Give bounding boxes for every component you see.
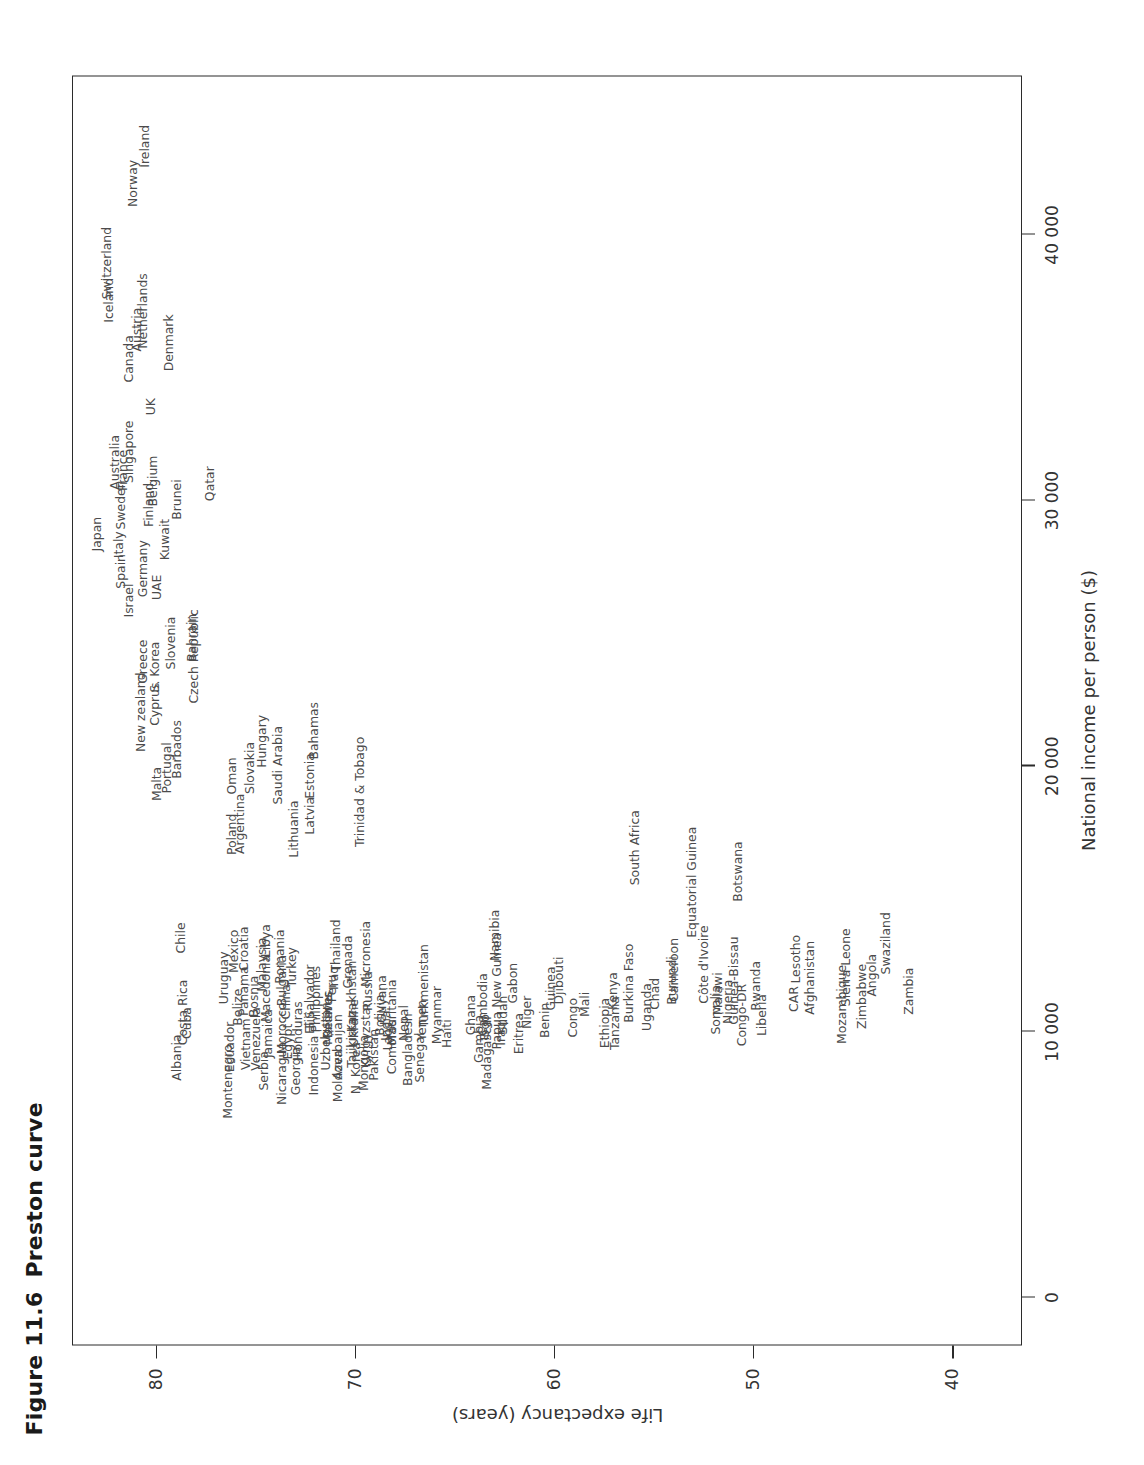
y-axis-tick (753, 1345, 754, 1358)
data-point-label: Swaziland (879, 912, 891, 974)
y-axis-tick (355, 1345, 356, 1358)
x-axis-title: National income per person ($) (1078, 75, 1099, 1345)
data-point-label: Kuwait (158, 518, 170, 559)
y-axis-tick-label: 80 (146, 1368, 166, 1420)
x-axis-tick (1022, 1030, 1035, 1031)
data-point-label: Libya (260, 924, 272, 957)
data-point-label: Kazakhstan (346, 960, 358, 1031)
data-point-label: Maldives (322, 990, 334, 1044)
data-point-label: Belgium (146, 455, 158, 506)
data-point-label: South Africa (628, 810, 640, 885)
data-point-label: Gabon (507, 962, 519, 1003)
data-point-label: Montenegro (222, 1044, 234, 1118)
data-point-label: Trinidad & Tobago (354, 736, 366, 846)
x-axis-tick (1022, 765, 1035, 766)
x-axis-tick-label: 20 000 (1042, 736, 1062, 795)
preston-curve-figure: Figure 11.6Preston curve JapanAustraliaS… (0, 0, 1144, 1465)
y-axis-tick (156, 1345, 157, 1358)
y-axis-tick-label: 50 (743, 1368, 763, 1420)
data-point-label: Oman (226, 757, 238, 794)
data-point-label: S. Korea (148, 641, 160, 692)
x-axis-tick-label: 40 000 (1042, 205, 1062, 264)
data-point-label: Saudi Arabia (272, 725, 284, 804)
y-axis-tick (554, 1345, 555, 1358)
data-point-label: Albania (170, 1034, 182, 1080)
data-point-label: Burkina Faso (622, 943, 634, 1022)
x-axis-tick-label: 10 000 (1042, 1002, 1062, 1061)
data-point-label: Latvia (304, 796, 316, 834)
data-point-label: Netherlands (137, 273, 149, 349)
x-axis-tick-label: 0 (1042, 1292, 1062, 1303)
data-point-label: Namibia (489, 909, 501, 960)
data-point-label: Turkey (286, 947, 298, 987)
data-point-label: Sierra Leone (840, 928, 852, 1006)
data-point-label: Congo-DR (736, 983, 748, 1045)
x-axis-tick-label: 30 000 (1042, 470, 1062, 529)
data-point-label: Japan (91, 516, 103, 551)
data-point-label: Serbia (258, 1051, 270, 1090)
data-point-label: Haiti (441, 1019, 453, 1048)
figure-number: Figure 11.6 (22, 1291, 47, 1435)
data-point-label: Barbados (170, 720, 182, 779)
data-point-label: Ireland (138, 124, 150, 167)
data-point-label: Croatia (238, 926, 250, 971)
x-axis-tick (1022, 1296, 1035, 1297)
data-point-label: Nicaragua (276, 1041, 288, 1104)
y-axis-tick-label: 70 (345, 1368, 365, 1420)
x-axis-tick (1022, 499, 1035, 500)
data-point-label: Israel (123, 583, 135, 617)
data-point-label: Denmark (162, 314, 174, 371)
data-point-label: UAE (150, 574, 162, 599)
data-point-label: Georgia (290, 1046, 302, 1095)
data-point-label: Lesotho (790, 934, 802, 983)
data-point-label: Mali (579, 991, 591, 1016)
data-point-label: Botswana (732, 841, 744, 902)
data-point-label: Chad (648, 977, 660, 1009)
data-point-label: Kenya (607, 972, 619, 1010)
data-point-label: UK (144, 398, 156, 415)
y-axis-tick (952, 1345, 953, 1358)
data-point-label: Fiji (304, 1012, 316, 1029)
figure-title: Figure 11.6Preston curve (22, 1102, 47, 1435)
data-point-label: Djibouti (553, 956, 565, 1004)
data-point-label: Bahrain (186, 613, 198, 661)
data-point-label: Niger (521, 995, 533, 1028)
figure-rotator: Figure 11.6Preston curve JapanAustraliaS… (0, 0, 1144, 1465)
data-point-label: Turkmenistan (417, 944, 429, 1028)
data-point-label: Angola (865, 953, 877, 996)
data-point-label: Bahamas (308, 701, 320, 759)
data-point-label: Chile (174, 922, 186, 953)
data-point-label: Zambia (903, 967, 915, 1014)
figure-title-text: Preston curve (22, 1102, 47, 1277)
data-point-label: New zealand (135, 672, 147, 751)
data-point-label: Argentina (234, 793, 246, 853)
y-axis-tick-label: 40 (942, 1368, 962, 1420)
data-point-label: Afghanistan (804, 940, 816, 1014)
data-point-label: Burundi (666, 956, 678, 1004)
x-axis-tick (1022, 233, 1035, 234)
data-point-label: Singapore (123, 420, 135, 483)
plot-area: JapanAustraliaSwitzerlandIcelandItalySpa… (72, 75, 1022, 1345)
data-point-label: Iceland (103, 277, 115, 322)
data-point-label: CAR (788, 986, 800, 1012)
data-point-label: Liberia (756, 994, 768, 1036)
data-point-label: Hungary (256, 714, 268, 767)
data-point-label: Brunei (170, 479, 182, 519)
data-point-label: Lithuania (288, 800, 300, 857)
data-point-label: Equatorial Guinea (686, 826, 698, 937)
data-point-label: Germany (137, 540, 149, 597)
data-point-label: Qatar (204, 466, 216, 501)
data-point-label: Slovenia (164, 616, 176, 669)
y-axis-title: Life expectancy (years) (408, 1405, 708, 1426)
